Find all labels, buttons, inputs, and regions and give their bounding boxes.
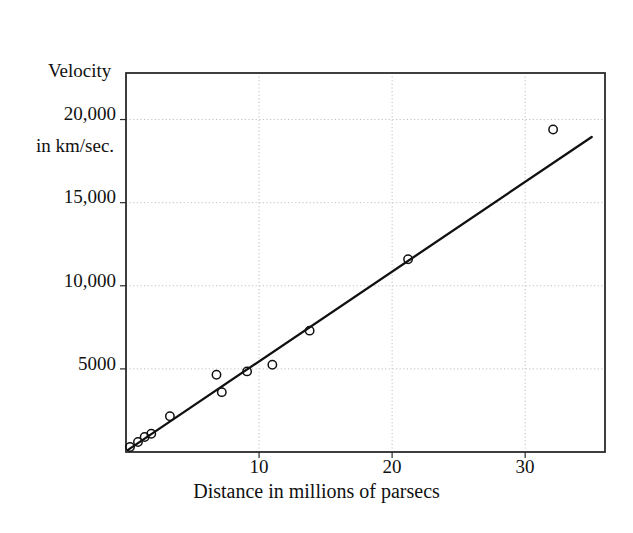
data-point-marker: [212, 371, 220, 379]
hubble-velocity-distance-chart: Velocity in km/sec. 20,000 15,000 10,000…: [0, 0, 633, 533]
plot-frame: [126, 73, 605, 452]
data-point-marker: [549, 125, 557, 133]
data-points: [126, 125, 558, 451]
axis-ticks: [120, 120, 525, 458]
regression-line: [128, 137, 592, 450]
data-point-marker: [268, 361, 276, 369]
data-point-marker: [218, 388, 226, 396]
fit-line: [128, 137, 592, 450]
gridlines: [126, 73, 605, 452]
plot-canvas: [0, 0, 633, 533]
data-point-marker: [166, 412, 174, 420]
